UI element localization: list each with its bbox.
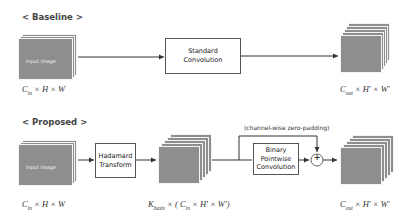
baseline-input-dims: Cin × H × W	[22, 84, 65, 96]
binary-line1: Binary	[257, 146, 296, 155]
basis-dims: Kbasis × ( Cin × H' × W')	[148, 199, 230, 211]
binary-line3: Convolution	[257, 163, 296, 172]
proposed-input-dims: Cin × H × W	[22, 199, 65, 211]
hadamard-transform-box: Hadamard Transform	[95, 143, 136, 178]
proposed-output-dims: Cout × H' × W'	[340, 199, 390, 211]
baseline-input-label: Input image	[26, 58, 56, 64]
hadamard-line2: Transform	[99, 161, 133, 170]
standard-conv-line2: Convolution	[184, 56, 223, 65]
skip-note: (channel-wise zero-padding)	[244, 124, 329, 131]
standard-conv-line1: Standard	[184, 47, 223, 56]
standard-convolution-box: Standard Convolution	[165, 38, 241, 74]
binary-line2: Pointwise	[257, 155, 296, 164]
proposed-title: < Proposed >	[22, 117, 87, 127]
hadamard-line1: Hadamard	[99, 152, 133, 161]
binary-pointwise-conv-box: Binary Pointwise Convolution	[253, 143, 299, 175]
baseline-title: < Baseline >	[22, 12, 83, 22]
plus-icon: +	[313, 153, 321, 165]
baseline-output-dims: Cout × H' × W'	[340, 84, 390, 96]
proposed-input-label: Input image	[26, 164, 56, 170]
